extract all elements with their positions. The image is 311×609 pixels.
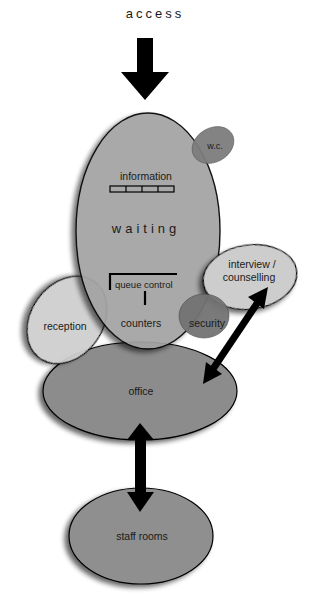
waiting-label: waiting — [111, 221, 180, 236]
space-planning-diagram: access staff rooms office reception info… — [0, 0, 311, 609]
interview-label-line1: interview / — [228, 258, 275, 270]
staff-rooms-label: staff rooms — [116, 530, 168, 542]
counters-label: counters — [121, 317, 161, 329]
office-label: office — [129, 385, 154, 397]
security-label: security — [189, 317, 226, 329]
information-label: information — [120, 170, 172, 182]
security-space: security — [179, 294, 229, 338]
reception-label: reception — [43, 320, 86, 332]
queue-control-label: queue control — [115, 279, 173, 290]
interview-label-line2: counselling — [223, 271, 276, 283]
wc-label: w.c. — [206, 141, 223, 151]
access-label: access — [126, 6, 184, 21]
access-arrow-icon — [121, 38, 169, 100]
